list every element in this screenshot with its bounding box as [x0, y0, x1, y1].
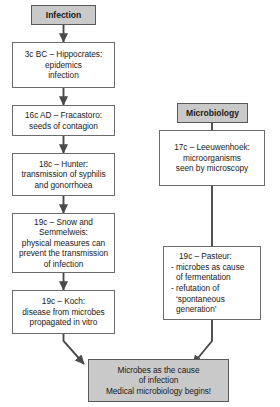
node-pasteur-line-6: generation’: [171, 304, 217, 315]
node-hippocrates-line-2: epidemics: [45, 60, 82, 71]
node-conclusion-line-2: of infection: [139, 375, 179, 386]
node-hunter-line-2: transmission of syphilis: [21, 169, 105, 180]
node-koch[interactable]: 19c – Koch: disease from microbes propag…: [12, 290, 115, 334]
node-leeuwenhoek-line-3: seen by microscopy: [176, 163, 248, 174]
node-koch-line-1: 19c – Koch:: [42, 296, 85, 307]
node-conclusion[interactable]: Microbes as the cause of infection Medic…: [88, 359, 229, 402]
node-leeuwenhoek[interactable]: 17c – Leeuwenhoek: microorganisms seen b…: [159, 130, 265, 186]
node-hippocrates[interactable]: 3c BC – Hippocrates: epidemics infection: [12, 42, 115, 88]
node-hunter-line-3: and gonorrhoea: [35, 180, 93, 191]
node-conclusion-line-3: Medical microbiology begins!: [106, 386, 211, 397]
node-leeuwenhoek-line-2: microorganisms: [183, 153, 241, 164]
node-hippocrates-line-1: 3c BC – Hippocrates:: [25, 49, 102, 60]
node-pasteur-line-5: ‘spontaneous: [171, 294, 225, 305]
node-pasteur-line-4: - refutation of: [171, 283, 219, 294]
arrow-pasteur-to-conclusion: [193, 320, 212, 364]
header-infection-label: Infection: [46, 10, 81, 21]
node-fracastoro-line-b: seeds of contagion: [29, 121, 98, 132]
node-hunter-line-1: 18c – Hunter:: [39, 159, 88, 170]
node-snow-semmelweis[interactable]: 19c – Snow and Semmelweis: physical meas…: [12, 213, 115, 273]
header-microbiology-label: Microbiology: [186, 108, 239, 119]
arrow-koch-to-conclusion: [64, 334, 85, 364]
node-leeuwenhoek-line-1: 17c – Leeuwenhoek:: [174, 142, 250, 153]
node-fracastoro-line-a: 16c AD – Fracastoro:: [25, 110, 102, 121]
header-microbiology[interactable]: Microbiology: [177, 103, 248, 123]
node-hunter[interactable]: 18c – Hunter: transmission of syphilis a…: [12, 153, 115, 196]
node-hippocrates-line-3: infection: [48, 70, 78, 81]
node-fracastoro[interactable]: 16c AD – Fracastoro: seeds of contagion: [12, 105, 115, 136]
node-pasteur-line-1: 19c – Pasteur:: [171, 251, 232, 262]
node-snow-line-5: of infection: [44, 259, 84, 270]
node-snow-line-3: physical measures can: [22, 238, 105, 249]
node-snow-line-4: prevent the transmission: [19, 248, 108, 259]
node-pasteur[interactable]: 19c – Pasteur: - microbes as cause of fe…: [163, 246, 261, 320]
node-koch-line-3: propagated in vitro: [30, 317, 98, 328]
node-koch-line-2: disease from microbes: [22, 307, 104, 318]
flowchart-diagram: Infection 3c BC – Hippocrates: epidemics…: [0, 0, 280, 407]
node-snow-line-2: Semmelweis:: [39, 227, 88, 238]
node-pasteur-line-2: - microbes as cause: [171, 262, 244, 273]
node-conclusion-line-1: Microbes as the cause: [118, 365, 200, 376]
header-infection[interactable]: Infection: [31, 5, 96, 25]
node-pasteur-line-3: of fermentation: [171, 272, 231, 283]
node-snow-line-1: 19c – Snow and: [34, 217, 93, 228]
